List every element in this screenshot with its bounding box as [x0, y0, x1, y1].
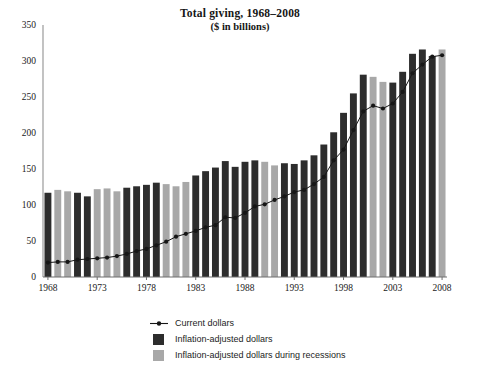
bar-recession: [261, 162, 268, 277]
line-data-point: [164, 240, 168, 244]
line-data-point: [105, 255, 109, 259]
line-data-point: [282, 194, 286, 198]
bar-recession: [113, 191, 120, 277]
line-data-point: [203, 225, 207, 229]
bar-normal: [389, 83, 396, 277]
line-data-point: [135, 249, 139, 253]
bar-normal: [192, 175, 199, 277]
line-data-point: [302, 188, 306, 192]
line-data-point: [272, 198, 276, 202]
line-data-point: [440, 53, 444, 57]
y-axis-tick-labels: 050100150200250300350: [22, 20, 37, 282]
line-data-point: [85, 257, 89, 261]
line-data-point: [174, 235, 178, 239]
line-data-point: [115, 254, 119, 258]
y-axis-tick-label: 50: [27, 236, 37, 246]
bar-series-group: [44, 49, 445, 277]
line-data-point: [233, 216, 237, 220]
x-axis-tick-label: 1998: [334, 283, 353, 293]
bar-recession: [163, 184, 170, 277]
bar-normal: [409, 54, 416, 277]
bar-normal: [291, 164, 298, 277]
bar-normal: [429, 56, 436, 277]
bar-normal: [281, 163, 288, 277]
x-axis-tick-label: 1993: [285, 283, 304, 293]
bar-recession: [182, 182, 189, 277]
bar-normal: [360, 75, 367, 277]
bar-normal: [399, 72, 406, 277]
line-data-point: [144, 247, 148, 251]
bar-normal: [84, 196, 91, 277]
y-axis-tick-label: 100: [22, 200, 37, 210]
bar-recession: [104, 188, 111, 277]
line-dot-marker-icon: [148, 318, 170, 329]
bar-normal: [301, 160, 308, 277]
y-axis-tick-label: 200: [22, 128, 37, 138]
line-data-point: [66, 260, 70, 264]
line-data-point: [381, 106, 385, 110]
legend-item-current-dollars: Current dollars: [148, 316, 448, 331]
bar-normal: [123, 188, 130, 277]
y-axis-tick-label: 250: [22, 92, 37, 102]
x-axis-tick-label: 1973: [88, 283, 107, 293]
bar-recession: [439, 49, 446, 277]
bar-normal: [330, 132, 337, 277]
bar-normal: [320, 145, 327, 277]
line-data-point: [322, 175, 326, 179]
line-data-point: [420, 63, 424, 67]
bar-normal: [419, 49, 426, 277]
x-axis-tick-label: 1968: [38, 283, 57, 293]
line-data-point: [341, 147, 345, 151]
line-data-point: [371, 104, 375, 108]
line-data-point: [292, 190, 296, 194]
x-axis-tick-label: 1983: [186, 283, 205, 293]
bar-recession: [173, 186, 180, 277]
legend-label-inflation-adjusted-recessions: Inflation-adjusted dollars during recess…: [175, 350, 346, 361]
line-data-point: [184, 232, 188, 236]
line-data-point: [243, 211, 247, 215]
y-axis-tick-label: 350: [22, 20, 37, 30]
x-axis-tick-label: 1978: [137, 283, 156, 293]
chart-container: Total giving, 1968–2008 ($ in billions) …: [0, 0, 480, 375]
bar-normal: [340, 113, 347, 277]
bar-normal: [143, 185, 150, 277]
legend-item-inflation-adjusted-recessions: Inflation-adjusted dollars during recess…: [148, 348, 448, 363]
line-data-point: [46, 261, 50, 265]
line-data-point: [430, 55, 434, 59]
bar-normal: [212, 168, 219, 277]
y-axis-tick-label: 150: [22, 164, 37, 174]
line-data-point: [391, 101, 395, 105]
bar-normal: [133, 186, 140, 277]
bar-recession: [271, 165, 278, 277]
line-data-point: [154, 243, 158, 247]
bar-normal: [251, 160, 258, 277]
line-data-point: [312, 182, 316, 186]
gray-square-swatch-icon: [148, 350, 170, 361]
chart-legend: Current dollars Inflation-adjusted dolla…: [148, 316, 448, 364]
bar-normal: [232, 167, 239, 277]
legend-label-current-dollars: Current dollars: [175, 318, 234, 329]
bar-recession: [380, 82, 387, 277]
bar-normal: [242, 162, 249, 277]
x-axis-tick-label: 2003: [383, 283, 402, 293]
x-axis-tick-labels: 196819731978198319881993199820032008: [38, 277, 451, 293]
bar-normal: [311, 155, 318, 277]
bar-normal: [74, 193, 81, 277]
line-data-point: [125, 252, 129, 256]
legend-label-inflation-adjusted: Inflation-adjusted dollars: [175, 334, 273, 345]
line-data-point: [213, 223, 217, 227]
x-axis-tick-label: 2008: [433, 283, 452, 293]
line-data-point: [75, 258, 79, 262]
line-data-point: [95, 256, 99, 260]
line-data-point: [253, 204, 257, 208]
line-data-point: [332, 158, 336, 162]
bar-normal: [202, 171, 209, 277]
legend-item-inflation-adjusted: Inflation-adjusted dollars: [148, 332, 448, 347]
y-axis-tick-label: 300: [22, 56, 37, 66]
line-data-point: [263, 202, 267, 206]
line-data-point: [401, 90, 405, 94]
line-data-point: [351, 128, 355, 132]
line-data-point: [194, 229, 198, 233]
bar-recession: [94, 189, 101, 277]
line-data-point: [223, 215, 227, 219]
